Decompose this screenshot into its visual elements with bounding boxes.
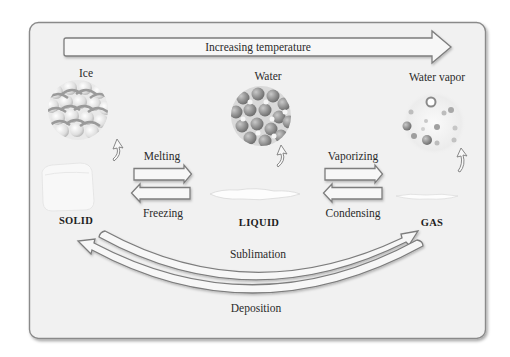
state-label-solid: SOLID [59,215,93,226]
ice-cube-icon [42,163,94,211]
label-water: Water [254,70,281,82]
phase-change-diagram: Increasing temperature Ice Water Water v… [0,0,510,357]
vaporizing-label: Vaporizing [328,150,379,163]
deposition-label: Deposition [231,302,282,315]
water-vapor-particle-sphere-icon [402,91,466,155]
label-water-vapor: Water vapor [409,71,465,84]
increasing-temperature-label: Increasing temperature [205,41,311,54]
condensing-label: Condensing [326,207,381,220]
state-label-gas: GAS [421,217,444,228]
melting-label: Melting [144,150,181,163]
state-label-liquid: LIQUID [239,217,279,228]
label-ice: Ice [79,67,93,79]
sublimation-label: Sublimation [230,248,286,260]
freezing-label: Freezing [143,207,183,220]
